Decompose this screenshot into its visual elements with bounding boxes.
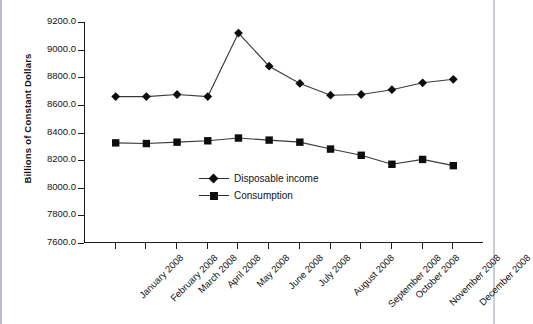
data-point-square xyxy=(296,138,303,145)
x-axis-tick-mark xyxy=(268,243,269,249)
x-axis-tick-mark xyxy=(422,243,423,249)
data-point-square xyxy=(204,137,211,144)
x-axis-tick-label: August 2008 xyxy=(350,252,396,298)
data-point-square xyxy=(358,152,365,159)
data-point-square xyxy=(450,162,457,169)
y-axis-tick-label: 9000.0 xyxy=(6,43,76,54)
plot-area xyxy=(84,22,483,243)
data-point-diamond xyxy=(295,79,304,88)
data-point-square xyxy=(143,140,150,147)
data-point-square xyxy=(235,134,242,141)
x-axis-tick-mark xyxy=(299,243,300,249)
series-canvas xyxy=(85,22,484,243)
y-axis-tick-label: 8200.0 xyxy=(6,153,76,164)
y-axis-tick-label: 9200.0 xyxy=(6,15,76,26)
data-point-diamond xyxy=(173,90,182,99)
data-point-square xyxy=(173,138,180,145)
x-axis-tick-mark xyxy=(452,243,453,249)
legend-item-consumption: Consumption xyxy=(199,187,319,204)
x-axis-tick-mark xyxy=(145,243,146,249)
x-axis-tick-mark xyxy=(207,243,208,249)
series-line xyxy=(116,33,454,97)
y-axis-tick-mark xyxy=(78,243,84,244)
x-axis-tick-mark xyxy=(115,243,116,249)
y-axis-tick-label: 7600.0 xyxy=(6,236,76,247)
data-point-diamond xyxy=(388,85,397,94)
x-axis-tick-mark xyxy=(391,243,392,249)
y-axis-tick-label: 8000.0 xyxy=(6,181,76,192)
legend-item-label: Disposable income xyxy=(229,173,319,184)
data-point-diamond xyxy=(418,78,427,87)
chart-legend: Disposable income Consumption xyxy=(199,170,319,204)
square-marker-icon xyxy=(199,190,229,202)
y-axis-tick-label: 8800.0 xyxy=(6,70,76,81)
x-axis-tick-mark xyxy=(330,243,331,249)
page-edge-right-rule xyxy=(493,0,495,324)
x-axis-tick-mark xyxy=(237,243,238,249)
x-axis-tick-mark xyxy=(176,243,177,249)
data-point-square xyxy=(419,156,426,163)
data-point-diamond xyxy=(449,75,458,84)
data-point-diamond xyxy=(203,92,212,101)
y-axis-title: Billions of Constant Dollars xyxy=(22,9,33,229)
series-disposable-income xyxy=(111,29,457,101)
data-point-diamond xyxy=(111,92,120,101)
legend-item-label: Consumption xyxy=(229,190,293,201)
data-point-diamond xyxy=(326,91,335,100)
data-point-diamond xyxy=(357,90,366,99)
data-point-square xyxy=(388,161,395,168)
y-axis-tick-label: 7800.0 xyxy=(6,208,76,219)
data-point-square xyxy=(265,136,272,143)
data-point-square xyxy=(112,139,119,146)
page-edge-left-rule xyxy=(0,0,2,324)
y-axis-tick-label: 8400.0 xyxy=(6,126,76,137)
series-consumption xyxy=(112,134,457,169)
legend-item-disposable-income: Disposable income xyxy=(199,170,319,187)
x-axis-tick-label: June 2008 xyxy=(286,252,325,291)
series-line xyxy=(116,138,454,166)
data-point-square xyxy=(327,145,334,152)
x-axis-tick-mark xyxy=(360,243,361,249)
data-point-diamond xyxy=(142,92,151,101)
diamond-marker-icon xyxy=(199,173,229,185)
y-axis-tick-label: 8600.0 xyxy=(6,98,76,109)
